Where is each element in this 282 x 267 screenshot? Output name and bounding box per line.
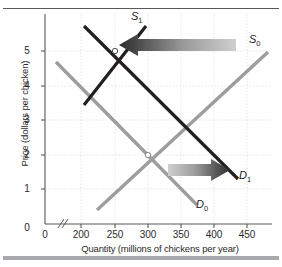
y-axis-ticks [41, 51, 45, 189]
y-tick-label-0: 0 [20, 222, 34, 233]
y-tick-label-1: 1 [20, 183, 34, 194]
x-tick-label-300: 300 [134, 229, 162, 240]
x-axis-ticks [81, 224, 247, 228]
curve-label-d0-letter: D [196, 198, 204, 210]
y-tick-label-5: 5 [20, 45, 34, 56]
curve-label-d0: D0 [196, 198, 208, 213]
curve-label-d1-sub: 1 [247, 175, 251, 184]
x-tick-label-450: 450 [233, 229, 261, 240]
x-tick-label-250: 250 [101, 229, 129, 240]
curve-label-s1: S1 [131, 10, 143, 25]
curve-label-d1-letter: D [239, 169, 247, 181]
supply-demand-plot [0, 0, 282, 267]
equilibrium-point-low [145, 152, 150, 157]
y-tick-label-4: 4 [20, 80, 34, 91]
supply-shift-arrow [119, 34, 236, 56]
x-axis-title: Quantity (millions of chickens per year) [44, 243, 276, 254]
x-tick-label-350: 350 [167, 229, 195, 240]
y-tick-label-2: 2 [20, 149, 34, 160]
x-tick-label-200: 200 [67, 229, 95, 240]
curve-label-s1-sub: 1 [138, 16, 142, 25]
curve-label-s0: S0 [249, 33, 261, 48]
figure-panel: Price (dollars per chicken) Quantity (mi… [0, 0, 282, 267]
footer-bar [3, 256, 279, 260]
x-tick-label-400: 400 [200, 229, 228, 240]
equilibrium-point-high [112, 48, 117, 53]
curve-label-d0-sub: 0 [204, 204, 208, 213]
x-tick-label-0: 0 [38, 229, 52, 240]
y-tick-label-3: 3 [20, 114, 34, 125]
curve-label-s0-sub: 0 [256, 39, 260, 48]
curve-label-d1: D1 [239, 169, 251, 184]
